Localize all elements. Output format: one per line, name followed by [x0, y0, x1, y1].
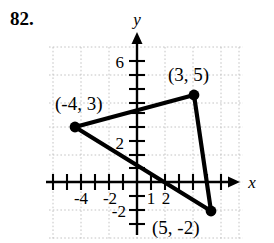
data-point-b — [189, 90, 200, 101]
coordinate-plane-plot: y x 6 2 -2 -4 -2 1 2 (-4, 3) (3, 5) (5, … — [0, 0, 274, 243]
x-axis-arrowhead — [228, 177, 240, 188]
x-tick-label-2: 2 — [162, 189, 171, 208]
y-tick-label-6: 6 — [116, 53, 125, 72]
y-axis-arrowhead — [132, 32, 143, 44]
point-label-c: (5, -2) — [152, 217, 199, 239]
data-point-c — [206, 206, 217, 217]
y-axis-label: y — [131, 10, 141, 29]
y-tick-label-2: 2 — [116, 134, 125, 153]
x-tick-label-1: 1 — [147, 189, 156, 208]
x-axis-label: x — [247, 173, 256, 192]
point-label-a: (-4, 3) — [55, 93, 102, 115]
x-tick-label-neg2: -2 — [103, 189, 117, 208]
point-label-b: (3, 5) — [168, 64, 209, 86]
data-point-a — [70, 122, 81, 133]
x-tick-label-neg4: -4 — [74, 189, 89, 208]
figure-container: 82. — [0, 0, 274, 243]
